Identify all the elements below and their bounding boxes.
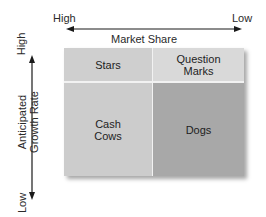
growth-rate-axis-label: Anticipated Growth Rate: [16, 80, 40, 164]
growth-rate-label-line2: Growth Rate: [28, 80, 40, 164]
quadrant-stars: Stars: [64, 48, 153, 83]
quadrant-label: Dogs: [186, 124, 212, 136]
double-headed-horizontal-arrow-icon: [66, 25, 242, 33]
market-share-axis-label: Market Share: [0, 33, 266, 45]
market-share-high-label: High: [53, 12, 76, 24]
market-share-low-label: Low: [232, 12, 252, 24]
quadrant-label-line2: Cows: [94, 130, 122, 142]
quadrant-cash-cows: Cash Cows: [64, 83, 153, 176]
quadrant-label-line2: Marks: [176, 65, 220, 77]
quadrant-question-marks: Question Marks: [153, 48, 244, 83]
growth-share-matrix: Stars Question Marks Cash Cows Dogs: [64, 48, 244, 176]
quadrant-label-line1: Question: [176, 53, 220, 65]
quadrant-dogs: Dogs: [153, 83, 244, 176]
quadrant-label: Stars: [95, 59, 121, 71]
quadrant-label-line1: Cash: [94, 118, 122, 130]
growth-rate-label-line1: Anticipated: [16, 80, 28, 164]
growth-rate-low-label: Low: [16, 188, 28, 217]
growth-rate-high-label: High: [15, 29, 27, 59]
